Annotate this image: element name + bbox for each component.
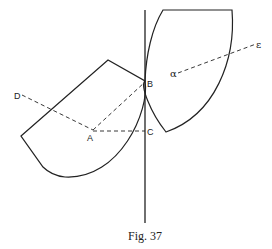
label-C: C bbox=[147, 127, 154, 137]
right-shape bbox=[144, 10, 233, 132]
dashed-line-D-A bbox=[22, 95, 93, 130]
label-D: D bbox=[14, 91, 21, 101]
dashed-line-alpha-epsilon bbox=[178, 44, 256, 73]
label-alpha: α bbox=[170, 68, 177, 79]
left-shape bbox=[21, 60, 146, 177]
figure-caption: Fig. 37 bbox=[128, 229, 162, 243]
label-B: B bbox=[147, 79, 153, 89]
label-epsilon: ε bbox=[256, 39, 261, 50]
figure-37-diagram: B C A D α ε Fig. 37 bbox=[0, 0, 272, 249]
label-A: A bbox=[87, 133, 93, 143]
